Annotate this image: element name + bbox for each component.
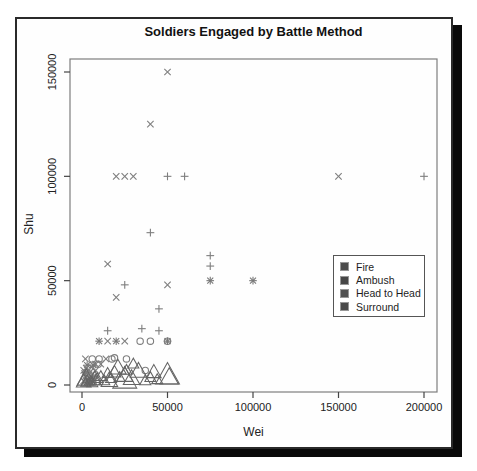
x-tick-label: 0 — [79, 401, 85, 413]
x-tick-label: 200000 — [406, 401, 443, 413]
legend-label: Surround — [356, 301, 399, 313]
figure-frame: 0500001000001500002000000500001000001500… — [15, 17, 453, 449]
y-tick-label: 150000 — [46, 54, 58, 91]
x-axis-title: Wei — [70, 425, 437, 439]
legend-item-ambush: Ambush — [340, 273, 424, 286]
filled-square-icon — [340, 276, 349, 285]
legend-label: Ambush — [356, 274, 395, 286]
x-tick-label: 100000 — [235, 401, 272, 413]
data-point-circle — [123, 356, 129, 362]
chart-title: Soldiers Engaged by Battle Method — [70, 24, 437, 39]
legend-label: Head to Head — [356, 287, 421, 299]
y-tick-label: 50000 — [46, 265, 58, 296]
data-point-triangle — [140, 375, 151, 385]
filled-square-icon — [340, 289, 349, 298]
x-tick-label: 150000 — [320, 401, 357, 413]
legend-item-fire: Fire — [340, 260, 424, 273]
y-axis-title: Shu — [22, 204, 36, 244]
data-point-circle — [137, 338, 143, 344]
filled-square-icon — [340, 262, 349, 271]
x-tick-label: 50000 — [152, 401, 183, 413]
legend-item-surround: Surround — [340, 300, 424, 313]
y-tick-label: 0 — [46, 382, 58, 388]
legend-item-head-to-head: Head to Head — [340, 287, 424, 300]
data-point-circle — [147, 338, 153, 344]
filled-square-icon — [340, 302, 349, 311]
data-point-triangle — [130, 362, 147, 377]
legend-label: Fire — [356, 261, 374, 273]
legend-box: Fire Ambush Head to Head Surround — [333, 255, 425, 317]
screenshot-canvas: 0500001000001500002000000500001000001500… — [0, 0, 477, 471]
scatter-plot: 0500001000001500002000000500001000001500… — [17, 19, 451, 447]
y-tick-label: 100000 — [46, 158, 58, 195]
